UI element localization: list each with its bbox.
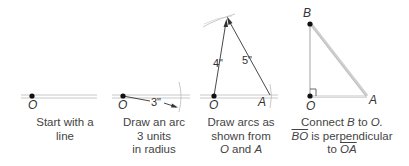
- caption-line: Start with a: [22, 116, 108, 130]
- caption-line: BO is perpendicular: [287, 130, 397, 144]
- step-1-figure: O: [21, 93, 97, 112]
- label-o: O: [118, 98, 127, 112]
- caption-line: Draw arcs as: [199, 116, 283, 130]
- step-3-figure: O A 4" 5": [200, 14, 278, 112]
- label-b: B: [303, 6, 311, 20]
- caption-word: Connect: [301, 116, 344, 128]
- step-1-caption: Start with a line: [22, 116, 108, 143]
- step-2-caption: Draw an arc 3 units in radius: [112, 116, 196, 157]
- arrow-head-icon: [224, 19, 229, 27]
- caption-word: and: [232, 143, 251, 155]
- arrow-head-icon: [227, 17, 233, 26]
- arrow-head-icon: [171, 104, 178, 108]
- caption-line: 3 units: [112, 130, 196, 144]
- caption-line: shown from: [199, 130, 283, 144]
- caption-word: to: [327, 143, 337, 155]
- caption-line: to OA: [287, 143, 397, 157]
- label-a: A: [368, 93, 377, 107]
- point-b: [307, 21, 312, 26]
- step-2-figure: O 3": [112, 82, 190, 112]
- point-ref: O: [220, 143, 229, 155]
- label-a: A: [257, 95, 266, 109]
- point-ref: B: [347, 116, 355, 128]
- caption-line: in radius: [112, 143, 196, 157]
- arc-at-a: [270, 84, 272, 108]
- label-o: O: [306, 99, 315, 113]
- dimension-5: 5": [242, 54, 252, 66]
- dimension-3: 3": [151, 96, 161, 108]
- point-ref: A: [254, 143, 262, 155]
- label-o: O: [28, 98, 37, 112]
- caption-line: line: [22, 130, 108, 144]
- dimension-4: 4": [213, 57, 223, 69]
- caption-line: Connect B to O.: [287, 116, 397, 130]
- caption-word: to: [358, 116, 368, 128]
- step-3-caption: Draw arcs as shown from O and A: [199, 116, 283, 157]
- arc-3-units: [179, 82, 181, 112]
- caption-word: is perpendicular: [311, 130, 392, 142]
- step-4-figure: B O A: [303, 6, 377, 113]
- caption-line: Draw an arc: [112, 116, 196, 130]
- segment-ref: OA: [340, 143, 357, 155]
- point-ref: O.: [371, 116, 383, 128]
- point-o: [307, 93, 312, 98]
- caption-line: O and A: [199, 143, 283, 157]
- step-4-caption: Connect B to O. BO is perpendicular to O…: [287, 116, 397, 157]
- segment-ref: BO: [291, 130, 308, 142]
- label-o: O: [209, 98, 218, 112]
